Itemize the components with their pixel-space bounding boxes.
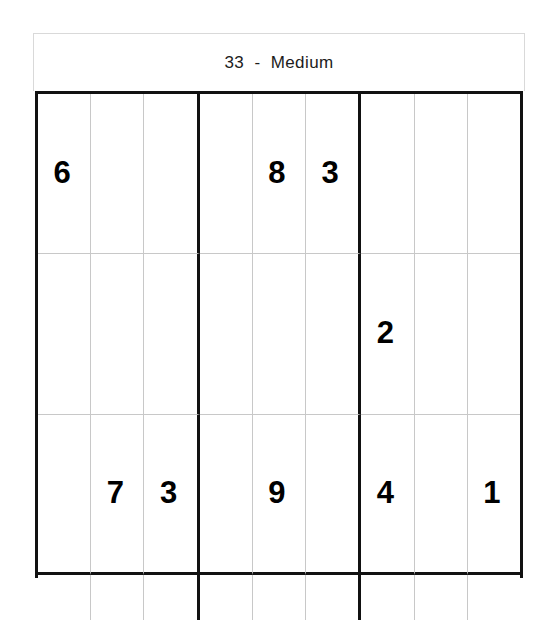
cell-value: 2 xyxy=(377,317,394,348)
grid-row: 7 3 9 4 1 xyxy=(38,415,520,575)
cell-r4c6[interactable]: 2 xyxy=(306,575,361,620)
cell-r2c7[interactable]: 2 xyxy=(361,254,414,414)
cell-r3c8[interactable] xyxy=(415,415,468,575)
cell-r4c2[interactable]: 8 xyxy=(91,575,144,620)
cell-r1c8[interactable] xyxy=(415,94,468,254)
cell-value: 7 xyxy=(107,477,124,508)
cell-value: 3 xyxy=(160,477,177,508)
cell-r3c7[interactable]: 4 xyxy=(361,415,414,575)
cell-value: 6 xyxy=(53,157,70,188)
cell-r2c6[interactable] xyxy=(306,254,361,414)
cell-r3c1[interactable] xyxy=(38,415,91,575)
cell-r3c3[interactable]: 3 xyxy=(144,415,199,575)
cell-r4c8[interactable] xyxy=(415,575,468,620)
cell-r2c1[interactable] xyxy=(38,254,91,414)
cell-r3c4[interactable] xyxy=(200,415,253,575)
cell-r1c6[interactable]: 3 xyxy=(306,94,361,254)
grid-row: 8 7 2 xyxy=(38,575,520,620)
cell-r2c8[interactable] xyxy=(415,254,468,414)
cell-value: 3 xyxy=(322,157,339,188)
cell-r1c4[interactable] xyxy=(200,94,253,254)
cell-r2c9[interactable] xyxy=(468,254,520,414)
page-title: 33 - Medium xyxy=(224,53,333,73)
puzzle-header: 33 - Medium xyxy=(33,33,525,91)
cell-r2c4[interactable] xyxy=(200,254,253,414)
grid-row: 2 xyxy=(38,254,520,414)
cell-r2c2[interactable] xyxy=(91,254,144,414)
cell-r2c5[interactable] xyxy=(253,254,306,414)
cell-r1c3[interactable] xyxy=(144,94,199,254)
cell-r3c5[interactable]: 9 xyxy=(253,415,306,575)
cell-r4c5[interactable] xyxy=(253,575,306,620)
cell-r3c6[interactable] xyxy=(306,415,361,575)
cell-r4c7[interactable] xyxy=(361,575,414,620)
grid-row: 6 8 3 xyxy=(38,94,520,254)
cell-r1c2[interactable] xyxy=(91,94,144,254)
cell-r1c7[interactable] xyxy=(361,94,414,254)
cell-r1c9[interactable] xyxy=(468,94,520,254)
cell-r1c1[interactable]: 6 xyxy=(38,94,91,254)
sudoku-grid[interactable]: 6 8 3 2 7 3 9 xyxy=(35,91,523,578)
cell-r2c3[interactable] xyxy=(144,254,199,414)
cell-value: 4 xyxy=(377,477,394,508)
cell-r4c1[interactable] xyxy=(38,575,91,620)
cell-value: 9 xyxy=(268,477,285,508)
cell-r4c9[interactable] xyxy=(468,575,520,620)
cell-value: 1 xyxy=(483,477,500,508)
cell-r4c4[interactable] xyxy=(200,575,253,620)
cell-r3c2[interactable]: 7 xyxy=(91,415,144,575)
sudoku-puzzle-sheet: 33 - Medium 6 8 3 2 xyxy=(0,0,546,620)
cell-r1c5[interactable]: 8 xyxy=(253,94,306,254)
cell-r3c9[interactable]: 1 xyxy=(468,415,520,575)
cell-r4c3[interactable]: 7 xyxy=(144,575,199,620)
cell-value: 8 xyxy=(268,157,285,188)
